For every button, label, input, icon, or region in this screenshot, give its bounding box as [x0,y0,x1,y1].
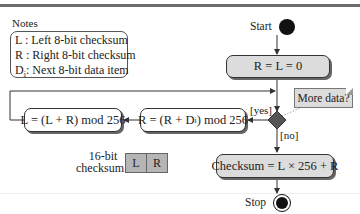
note-r: R : Right 8-bit checksum [15,48,123,63]
notes-title: Notes [12,17,38,29]
stop-node [276,197,288,209]
checksum-cell-r: R [146,153,168,173]
final-activity: Checksum = L × 256 + R [216,154,334,178]
start-label: Start [250,20,272,32]
update-r-activity: R = (R + Di) mod 256 [140,108,246,132]
notes-box: L : Left 8-bit checksum R : Right 8-bit … [10,31,128,78]
stop-label: Stop [245,196,266,208]
init-activity: R = L = 0 [226,55,330,78]
note-di: Di: Next 8-bit data item [15,63,123,82]
checksum-cell-l: L [125,153,147,173]
yes-label: [yes] [250,104,272,116]
no-label: [no] [280,129,298,141]
note-fold-icon [346,88,353,95]
checksum16-label: 16-bit checksum [76,150,122,174]
decision-note: More data? [294,88,353,108]
update-l-activity: L = (L + R) mod 256 [24,108,122,132]
note-l: L : Left 8-bit checksum [15,33,123,48]
start-node [279,19,295,35]
